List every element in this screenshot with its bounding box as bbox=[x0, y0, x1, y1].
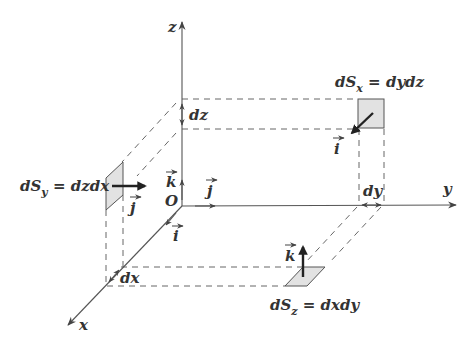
diagram-canvas: z y x O dz dy dx k j i i j k dSx = dydz … bbox=[0, 0, 475, 345]
dSz-formula: dSz = dxdy bbox=[270, 296, 361, 318]
z-axis-label: z bbox=[167, 18, 177, 36]
dz-label: dz bbox=[189, 106, 208, 124]
unit-vector-j-dSy: j bbox=[127, 197, 141, 217]
svg-text:i: i bbox=[173, 227, 179, 245]
x-axis bbox=[68, 206, 182, 325]
unit-vector-i-origin: i bbox=[172, 226, 183, 245]
construction-lines bbox=[106, 99, 384, 286]
svg-text:k: k bbox=[285, 247, 295, 265]
unit-vector-k-origin: k bbox=[166, 172, 177, 191]
y-axis-label: y bbox=[442, 180, 453, 198]
unit-vector-k-dSz: k bbox=[285, 245, 296, 265]
svg-text:j: j bbox=[127, 199, 136, 217]
svg-text:k: k bbox=[166, 173, 176, 191]
svg-text:i: i bbox=[334, 140, 340, 158]
dSx-formula: dSx = dydz bbox=[335, 73, 425, 95]
dy-label: dy bbox=[363, 182, 383, 200]
svg-text:j: j bbox=[204, 182, 213, 200]
x-axis-label: x bbox=[78, 316, 89, 334]
surface-element-dSy bbox=[106, 162, 145, 210]
y-axis bbox=[182, 205, 456, 206]
dx-marker bbox=[109, 270, 119, 282]
unit-vector-j-origin: j bbox=[204, 180, 217, 200]
surface-element-dSx bbox=[352, 99, 384, 133]
increment-markers bbox=[109, 104, 381, 282]
dx-label: dx bbox=[120, 269, 140, 287]
dSy-formula: dSy = dzdx bbox=[20, 177, 110, 199]
unit-vector-i-dSx: i bbox=[333, 138, 344, 158]
origin-label: O bbox=[165, 192, 178, 210]
